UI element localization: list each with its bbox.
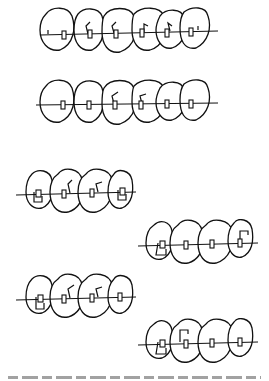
panel-segment-right-b bbox=[136, 318, 261, 368]
panel-segment-left-a bbox=[14, 168, 139, 218]
teeth-diagram-icon bbox=[14, 273, 139, 323]
panel-upper-arch-a bbox=[34, 4, 224, 54]
teeth-diagram-icon bbox=[136, 318, 261, 368]
teeth-diagram-icon bbox=[34, 76, 224, 126]
panel-segment-left-b bbox=[14, 273, 139, 323]
panel-upper-arch-b bbox=[34, 76, 224, 126]
teeth-diagram-icon bbox=[34, 4, 224, 54]
figure-caption-cropped bbox=[0, 372, 269, 381]
panel-segment-right-a bbox=[136, 219, 261, 269]
caption-text-fragment bbox=[8, 376, 261, 379]
teeth-diagram-icon bbox=[14, 168, 139, 218]
teeth-diagram-icon bbox=[136, 219, 261, 269]
